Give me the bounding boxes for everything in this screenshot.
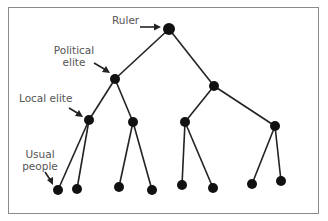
node-political-elite-left xyxy=(110,74,120,84)
node-political-elite-right xyxy=(209,81,219,91)
label-usual-people-line1: Usual xyxy=(20,148,60,160)
label-ruler: Ruler xyxy=(112,14,139,26)
node-local-elite-2 xyxy=(128,117,138,127)
edge-local-people-4 xyxy=(133,122,152,190)
node-person-8 xyxy=(276,176,286,186)
edge-local-people-8 xyxy=(275,126,281,181)
edge-ruler-political-right xyxy=(169,29,214,86)
edge-political-local-2 xyxy=(115,79,133,122)
hierarchy-tree xyxy=(0,0,328,221)
node-local-elite-3 xyxy=(180,117,190,127)
node-person-1 xyxy=(53,185,63,195)
arrow-icon-usual-people xyxy=(45,172,53,185)
label-political-elite-line2: elite xyxy=(50,56,98,68)
node-person-5 xyxy=(177,180,187,190)
edge-local-people-5 xyxy=(182,122,185,185)
edge-political-local-4 xyxy=(214,86,275,126)
edge-local-people-1 xyxy=(58,120,89,190)
edge-political-local-1 xyxy=(89,79,115,120)
edge-local-people-7 xyxy=(252,126,275,184)
edge-political-local-3 xyxy=(185,86,214,122)
arrow-icon-local-elite xyxy=(69,108,83,117)
label-usual-people-line2: people xyxy=(20,160,60,172)
label-local-elite: Local elite xyxy=(19,92,72,104)
edge-local-people-6 xyxy=(185,122,213,188)
node-person-6 xyxy=(208,183,218,193)
node-person-3 xyxy=(114,182,124,192)
label-usual-people: Usual people xyxy=(20,148,60,172)
node-person-2 xyxy=(72,184,82,194)
edge-ruler-political-left xyxy=(115,29,169,79)
node-person-4 xyxy=(147,185,157,195)
label-political-elite-line1: Political xyxy=(50,44,98,56)
node-local-elite-1 xyxy=(84,115,94,125)
node-local-elite-4 xyxy=(270,121,280,131)
edge-local-people-3 xyxy=(119,122,133,187)
label-political-elite: Political elite xyxy=(50,44,98,68)
node-person-7 xyxy=(247,179,257,189)
node-ruler xyxy=(163,23,175,35)
arrow-icon-ruler xyxy=(140,24,161,31)
edge-local-people-2 xyxy=(77,120,89,189)
